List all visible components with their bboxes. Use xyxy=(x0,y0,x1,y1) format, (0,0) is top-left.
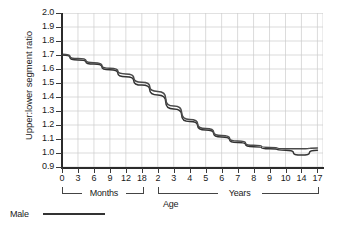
y-tick-mark xyxy=(56,111,62,112)
y-tick-label: 1.8 xyxy=(42,35,54,45)
y-tick-label: 1.4 xyxy=(42,91,54,101)
data-lines xyxy=(62,13,323,167)
y-axis-spine xyxy=(61,13,63,168)
y-tick-mark xyxy=(56,83,62,84)
y-tick-mark xyxy=(56,125,62,126)
y-tick-label: 1.2 xyxy=(42,119,54,129)
y-tick-mark xyxy=(56,69,62,70)
y-tick-mark xyxy=(56,41,62,42)
y-axis-title: Upper:lower segment ratio xyxy=(23,6,34,166)
y-tick-label: 2.0 xyxy=(42,7,54,17)
chart-figure: Upper:lower segment ratio 2.01.91.81.71.… xyxy=(0,0,343,227)
legend-label-male: Male xyxy=(10,209,29,219)
legend-swatch-male xyxy=(43,213,105,215)
y-tick-label: 1.0 xyxy=(42,147,54,157)
y-tick-label: 1.3 xyxy=(42,105,54,115)
y-tick-mark xyxy=(56,55,62,56)
x-axis-title: Age xyxy=(163,199,178,209)
plot-area xyxy=(62,13,323,167)
x-tick-label: 17 xyxy=(308,173,326,183)
y-tick-label: 1.6 xyxy=(42,63,54,73)
y-tick-label: 1.5 xyxy=(42,77,54,87)
y-tick-mark xyxy=(56,27,62,28)
y-tick-label: 1.7 xyxy=(42,49,54,59)
bracket-line-left xyxy=(159,193,223,194)
y-tick-label: 1.9 xyxy=(42,21,54,31)
legend: Male xyxy=(10,209,105,219)
y-tick-mark xyxy=(56,13,62,14)
bracket-label: Years xyxy=(218,188,262,198)
y-tick-mark xyxy=(56,153,62,154)
y-tick-label: 0.9 xyxy=(42,161,54,171)
bracket-label: Months xyxy=(82,188,126,198)
y-tick-mark xyxy=(56,139,62,140)
bracket-line-right xyxy=(255,193,319,194)
y-tick-label: 1.1 xyxy=(42,133,54,143)
y-tick-mark xyxy=(56,97,62,98)
